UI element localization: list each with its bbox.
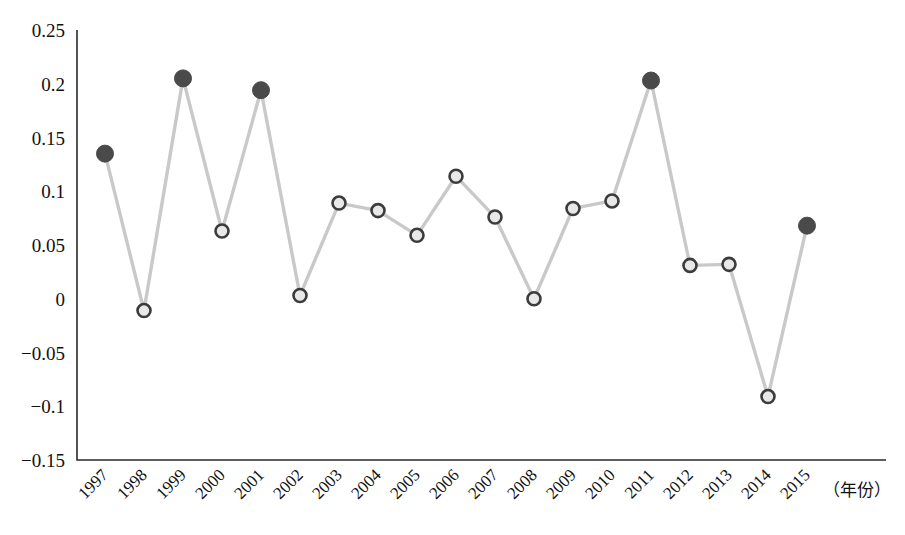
line-chart: 0.250.20.150.10.050−0.05−0.1−0.15 199719… xyxy=(0,0,905,535)
data-point-markers xyxy=(97,70,816,403)
y-tick-label: 0.25 xyxy=(32,20,65,41)
data-series xyxy=(97,70,816,403)
x-axis-title-text: （年份） xyxy=(823,481,891,500)
data-point-2012 xyxy=(684,259,697,272)
y-tick-label: −0.05 xyxy=(21,343,65,364)
chart-svg: 0.250.20.150.10.050−0.05−0.1−0.15 199719… xyxy=(0,0,905,535)
data-point-2010 xyxy=(606,194,619,207)
x-tick-label-2008: 2008 xyxy=(503,465,540,502)
x-tick-label-1999: 1999 xyxy=(152,465,189,502)
x-axis-tick-labels: 1997199819992000200120022003200420052006… xyxy=(74,465,813,503)
data-point-2003 xyxy=(333,197,346,210)
data-point-2007 xyxy=(489,211,502,224)
data-point-2011 xyxy=(643,72,660,89)
data-point-2008 xyxy=(528,292,541,305)
data-point-2005 xyxy=(411,229,424,242)
data-point-1997 xyxy=(97,145,114,162)
data-point-2015 xyxy=(799,217,816,234)
x-tick-label-2004: 2004 xyxy=(347,465,385,503)
x-tick-label-1998: 1998 xyxy=(113,465,150,502)
x-tick-label-2005: 2005 xyxy=(386,465,423,502)
x-tick-label-2013: 2013 xyxy=(698,465,735,502)
data-point-2000 xyxy=(216,225,229,238)
y-tick-label: 0.05 xyxy=(32,235,65,256)
data-point-2006 xyxy=(450,170,463,183)
y-tick-label: 0.1 xyxy=(41,181,65,202)
x-tick-label-2015: 2015 xyxy=(776,465,813,502)
data-point-2004 xyxy=(372,204,385,217)
data-point-2001 xyxy=(253,82,270,99)
y-tick-label: 0 xyxy=(56,289,66,310)
data-point-1998 xyxy=(138,304,151,317)
y-tick-label: −0.15 xyxy=(21,450,65,471)
y-axis-tick-labels: 0.250.20.150.10.050−0.05−0.1−0.15 xyxy=(21,20,65,471)
x-tick-label-2012: 2012 xyxy=(659,465,696,502)
x-tick-label-2000: 2000 xyxy=(191,465,228,502)
x-tick-label-1997: 1997 xyxy=(74,465,112,503)
x-tick-label-2002: 2002 xyxy=(269,465,306,502)
data-point-2014 xyxy=(762,390,775,403)
data-point-2009 xyxy=(567,202,580,215)
y-tick-label: 0.2 xyxy=(41,74,65,95)
series-line-path xyxy=(105,78,807,396)
y-tick-label: 0.15 xyxy=(32,128,65,149)
x-tick-label-2010: 2010 xyxy=(581,465,618,502)
x-tick-label-2011: 2011 xyxy=(621,465,658,502)
data-point-2002 xyxy=(294,289,307,302)
x-tick-label-2014: 2014 xyxy=(737,465,775,503)
data-point-2013 xyxy=(723,258,736,271)
data-point-1999 xyxy=(175,70,192,87)
x-axis-title: （年份） xyxy=(823,481,891,500)
x-tick-label-2009: 2009 xyxy=(542,465,579,502)
x-tick-label-2007: 2007 xyxy=(464,465,502,503)
x-tick-label-2003: 2003 xyxy=(308,465,345,502)
x-tick-label-2001: 2001 xyxy=(230,465,267,502)
y-tick-label: −0.1 xyxy=(31,396,65,417)
x-tick-label-2006: 2006 xyxy=(425,465,462,502)
